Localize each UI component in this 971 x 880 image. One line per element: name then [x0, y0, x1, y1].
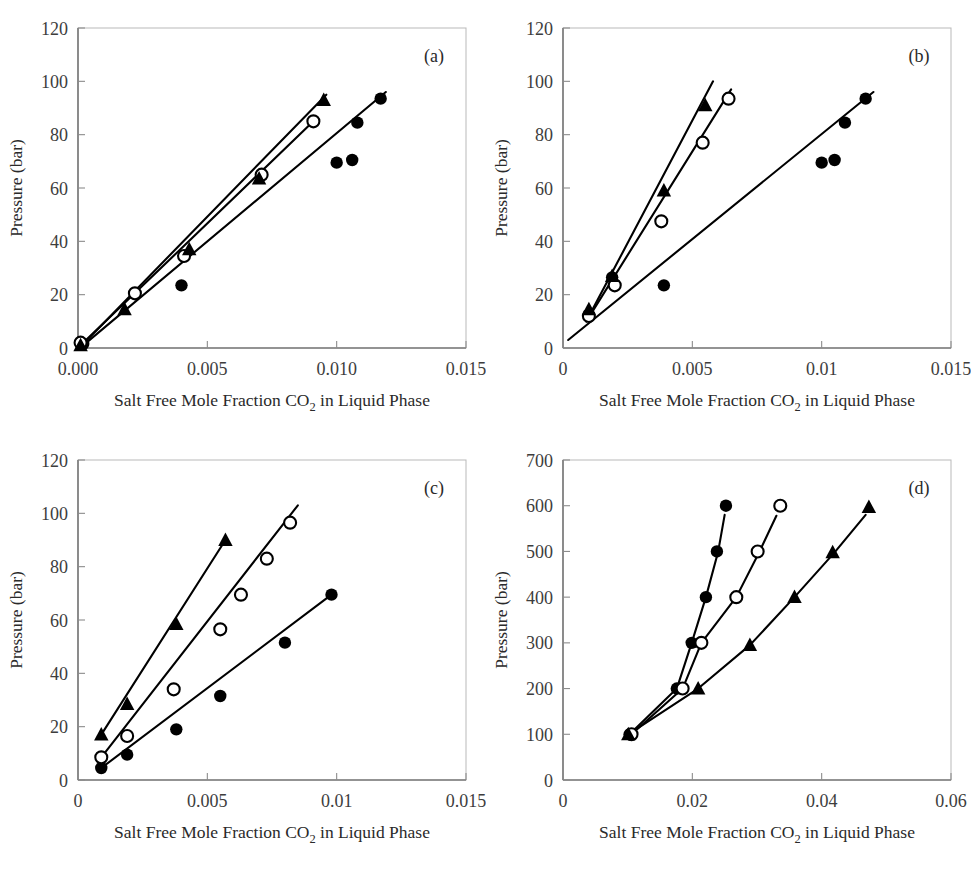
data-point-a-filled-circle — [374, 92, 386, 104]
data-point-a-filled-circle — [175, 279, 187, 291]
data-point-c-filled-circle — [121, 748, 133, 760]
y-tick-label-c-5: 100 — [41, 504, 68, 524]
y-tick-label-c-1: 20 — [50, 717, 68, 737]
y-tick-label-b-4: 80 — [535, 125, 553, 145]
x-axis-title-a: Salt Free Mole Fraction CO2 in Liquid Ph… — [114, 390, 430, 414]
data-point-c-open-circle — [261, 553, 273, 565]
chart-panel-b: 02040608010012000.0050.010.015Salt Free … — [485, 0, 971, 440]
data-point-a-filled-circle — [351, 116, 363, 128]
y-tick-label-c-3: 60 — [50, 611, 68, 631]
data-point-c-filled-circle — [170, 723, 182, 735]
x-axis-title-d: Salt Free Mole Fraction CO2 in Liquid Ph… — [599, 822, 915, 846]
y-tick-label-c-4: 80 — [50, 557, 68, 577]
y-tick-label-d-5: 500 — [526, 542, 553, 562]
y-tick-label-a-4: 80 — [50, 125, 68, 145]
x-tick-label-d-1: 0.02 — [677, 791, 709, 811]
y-tick-label-d-3: 300 — [526, 633, 553, 653]
x-tick-label-b-3: 0.015 — [931, 359, 971, 379]
data-point-c-open-circle — [235, 589, 247, 601]
plot-frame-c — [78, 460, 466, 780]
x-tick-label-a-1: 0.005 — [187, 359, 228, 379]
data-point-a-filled-triangle — [182, 242, 196, 256]
data-point-d-filled-triangle — [825, 545, 839, 559]
x-tick-label-b-2: 0.01 — [806, 359, 838, 379]
data-point-c-filled-circle — [214, 690, 226, 702]
data-point-a-open-circle — [307, 115, 319, 127]
y-tick-label-d-1: 100 — [526, 725, 553, 745]
x-tick-label-d-3: 0.06 — [935, 791, 967, 811]
data-point-b-filled-circle — [658, 279, 670, 291]
plot-frame-b — [563, 28, 951, 348]
data-point-c-filled-triangle — [218, 532, 232, 546]
chart-svg-b: 02040608010012000.0050.010.015Salt Free … — [485, 0, 971, 440]
x-tick-label-c-1: 0.005 — [187, 791, 228, 811]
data-point-c-open-circle — [121, 730, 133, 742]
y-tick-label-a-1: 20 — [50, 285, 68, 305]
x-axis-title-b: Salt Free Mole Fraction CO2 in Liquid Ph… — [599, 390, 915, 414]
y-tick-label-d-4: 400 — [526, 588, 553, 608]
panel-label-a: (a) — [424, 46, 444, 67]
x-tick-label-c-3: 0.015 — [446, 791, 486, 811]
fit-curve-a-filled-triangle — [81, 95, 327, 347]
x-tick-label-a-3: 0.015 — [446, 359, 486, 379]
x-tick-label-b-0: 0 — [559, 359, 568, 379]
y-tick-label-b-5: 100 — [526, 72, 553, 92]
y-tick-label-d-2: 200 — [526, 679, 553, 699]
data-point-b-filled-circle — [859, 92, 871, 104]
data-point-c-open-circle — [284, 517, 296, 529]
data-point-a-filled-circle — [330, 156, 342, 168]
data-point-a-open-circle — [129, 287, 141, 299]
y-tick-label-b-6: 120 — [526, 19, 553, 39]
y-tick-label-a-6: 120 — [41, 19, 68, 39]
data-point-d-open-circle — [677, 683, 689, 695]
data-point-b-filled-circle — [828, 154, 840, 166]
chart-svg-a: 0204060801001200.0000.0050.0100.015Salt … — [0, 0, 486, 440]
y-tick-label-b-3: 60 — [535, 179, 553, 199]
figure-container: 0204060801001200.0000.0050.0100.015Salt … — [0, 0, 971, 880]
data-point-d-open-circle — [752, 545, 764, 557]
data-point-b-open-circle — [723, 93, 735, 105]
chart-svg-c: 02040608010012000.0050.010.015Salt Free … — [0, 432, 486, 872]
fit-curve-c-open-circle — [101, 505, 298, 757]
panel-label-d: (d) — [909, 478, 930, 499]
chart-panel-a: 0204060801001200.0000.0050.0100.015Salt … — [0, 0, 486, 440]
y-axis-title-d: Pressure (bar) — [491, 571, 511, 669]
x-tick-label-a-0: 0.000 — [58, 359, 99, 379]
y-tick-label-d-6: 600 — [526, 496, 553, 516]
data-point-d-filled-circle — [700, 591, 712, 603]
data-point-d-open-circle — [695, 637, 707, 649]
data-point-d-filled-triangle — [862, 499, 876, 513]
y-tick-label-c-0: 0 — [59, 771, 68, 791]
y-tick-label-d-0: 0 — [544, 771, 553, 791]
y-axis-title-b: Pressure (bar) — [491, 139, 511, 237]
y-axis-title-a: Pressure (bar) — [6, 139, 26, 237]
data-point-c-filled-triangle — [94, 727, 108, 741]
y-tick-label-c-6: 120 — [41, 451, 68, 471]
data-point-d-filled-circle — [711, 545, 723, 557]
y-axis-title-c: Pressure (bar) — [6, 571, 26, 669]
data-point-d-open-circle — [730, 591, 742, 603]
y-tick-label-a-0: 0 — [59, 339, 68, 359]
data-point-c-open-circle — [95, 751, 107, 763]
data-point-a-filled-triangle — [317, 92, 331, 106]
data-point-c-filled-circle — [325, 588, 337, 600]
data-point-b-open-circle — [655, 215, 667, 227]
fit-curve-b-filled-circle — [568, 92, 873, 340]
data-point-b-filled-circle — [839, 116, 851, 128]
x-tick-label-c-2: 0.01 — [321, 791, 353, 811]
data-point-b-filled-circle — [815, 156, 827, 168]
y-tick-label-b-2: 40 — [535, 232, 553, 252]
fit-curve-c-filled-triangle — [101, 540, 225, 735]
x-tick-label-d-2: 0.04 — [806, 791, 838, 811]
data-point-d-open-circle — [774, 500, 786, 512]
chart-svg-d: 010020030040050060070000.020.040.06Salt … — [485, 432, 971, 872]
data-point-d-filled-circle — [720, 500, 732, 512]
y-tick-label-b-1: 20 — [535, 285, 553, 305]
data-point-c-open-circle — [168, 683, 180, 695]
chart-panel-d: 010020030040050060070000.020.040.06Salt … — [485, 432, 971, 872]
y-tick-label-a-2: 40 — [50, 232, 68, 252]
data-point-b-open-circle — [697, 137, 709, 149]
y-tick-label-d-7: 700 — [526, 451, 553, 471]
y-tick-label-a-3: 60 — [50, 179, 68, 199]
y-tick-label-c-2: 40 — [50, 664, 68, 684]
